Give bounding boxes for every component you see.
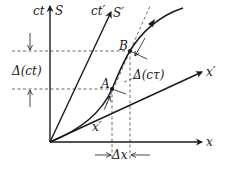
label-S-prime: S′ — [113, 6, 124, 20]
point-A — [110, 87, 114, 91]
point-B — [128, 49, 132, 53]
label-A: A — [100, 77, 110, 91]
label-ct-prime: ct′ — [91, 4, 106, 18]
dashed-line-ctprime-parallel — [104, 6, 150, 110]
label-delta-ctau: Δ(cτ) — [132, 68, 165, 82]
label-ct: ct — [33, 4, 45, 18]
label-delta-x: Δx — [111, 148, 128, 162]
spacetime-diagram: ct S ct′ S′ x x′ B A Δ(ct) Δ(cτ) x′ Δx — [0, 0, 229, 169]
label-x-prime: x′ — [206, 65, 216, 79]
tangent-B — [130, 51, 147, 59]
label-x: x — [206, 135, 213, 149]
label-S: S — [55, 4, 63, 18]
worldline-arrow-icon — [148, 19, 155, 27]
dashed-guides — [12, 6, 150, 160]
label-x-prime-inner: x′ — [92, 120, 102, 134]
label-B: B — [118, 39, 128, 53]
tangent-A — [112, 89, 126, 94]
label-delta-ct: Δ(ct) — [11, 64, 42, 78]
